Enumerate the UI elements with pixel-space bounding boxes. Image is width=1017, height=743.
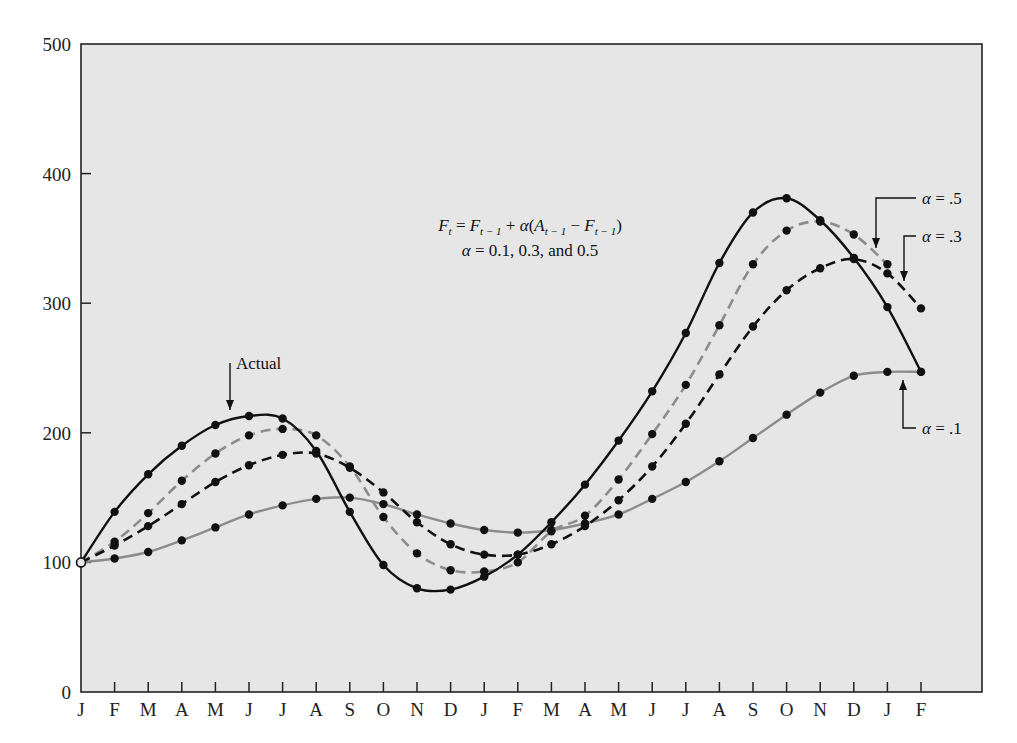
data-point [178, 477, 186, 485]
data-point [614, 510, 622, 518]
formula-alpha-values: = 0.1, 0.3, and 0.5 [475, 241, 598, 260]
data-point [883, 368, 891, 376]
data-point [178, 442, 186, 450]
x-tick-label: A [578, 699, 592, 720]
alpha3-callout-label: α = .3 [922, 227, 962, 246]
data-point [682, 381, 690, 389]
data-point [782, 286, 790, 294]
data-point [346, 464, 354, 472]
y-tick-label: 500 [43, 34, 72, 55]
actual-callout-label: Actual [236, 354, 282, 373]
data-point [581, 512, 589, 520]
data-point [850, 230, 858, 238]
data-point [278, 501, 286, 509]
data-point [211, 523, 219, 531]
data-point [782, 226, 790, 234]
y-tick-label: 300 [43, 293, 72, 314]
x-tick-label: J [480, 699, 487, 720]
data-point [514, 528, 522, 536]
origin-point [77, 558, 86, 567]
x-tick-label: O [377, 699, 391, 720]
formula-line-1: Ft = Ft − 1 + α(At − 1 − Ft − 1) [380, 216, 680, 241]
x-tick-label: F [916, 699, 927, 720]
data-point [682, 478, 690, 486]
data-point [413, 584, 421, 592]
data-point [782, 194, 790, 202]
data-point [883, 260, 891, 268]
x-tick-label: M [610, 699, 627, 720]
data-point [715, 321, 723, 329]
data-point [480, 550, 488, 558]
data-point [379, 561, 387, 569]
data-point [413, 549, 421, 557]
data-point [446, 585, 454, 593]
data-point [379, 513, 387, 521]
data-point [245, 431, 253, 439]
x-tick-label: N [813, 699, 827, 720]
x-tick-label: O [780, 699, 794, 720]
data-point [715, 370, 723, 378]
data-point [480, 526, 488, 534]
data-point [446, 519, 454, 527]
x-tick-label: S [345, 699, 356, 720]
y-tick-label: 200 [43, 423, 72, 444]
data-point [850, 372, 858, 380]
data-point [749, 260, 757, 268]
data-point [883, 303, 891, 311]
data-point [278, 425, 286, 433]
forecast-chart: 0100200300400500JFMAMJJASONDJFMAMJJASOND… [0, 0, 1017, 743]
data-point [917, 368, 925, 376]
data-point [715, 457, 723, 465]
x-tick-label: A [713, 699, 727, 720]
x-tick-label: F [109, 699, 120, 720]
data-point [144, 470, 152, 478]
data-point [346, 508, 354, 516]
data-point [312, 495, 320, 503]
data-point [715, 259, 723, 267]
data-point [614, 436, 622, 444]
data-point [245, 461, 253, 469]
x-tick-label: J [884, 699, 891, 720]
data-point [682, 329, 690, 337]
data-point [917, 304, 925, 312]
data-point [446, 540, 454, 548]
formula-annotation: Ft = Ft − 1 + α(At − 1 − Ft − 1) α = 0.1… [380, 216, 680, 260]
data-point [413, 518, 421, 526]
data-point [581, 480, 589, 488]
data-point [547, 518, 555, 526]
x-tick-label: J [245, 699, 252, 720]
x-tick-label: M [543, 699, 560, 720]
x-tick-label: M [140, 699, 157, 720]
data-point [614, 496, 622, 504]
data-point [110, 554, 118, 562]
data-point [648, 430, 656, 438]
data-point [883, 269, 891, 277]
x-tick-label: N [410, 699, 424, 720]
data-point [514, 558, 522, 566]
data-point [178, 536, 186, 544]
data-point [446, 566, 454, 574]
data-point [749, 322, 757, 330]
data-point [346, 493, 354, 501]
x-tick-label: A [175, 699, 189, 720]
data-point [816, 264, 824, 272]
data-point [749, 434, 757, 442]
formula-line-2: α = 0.1, 0.3, and 0.5 [380, 241, 680, 260]
alpha1-callout-label: α = .1 [922, 419, 962, 438]
data-point [211, 449, 219, 457]
data-point [110, 541, 118, 549]
data-point [749, 208, 757, 216]
x-tick-label: J [279, 699, 286, 720]
data-point [178, 500, 186, 508]
data-point [245, 510, 253, 518]
x-tick-label: S [748, 699, 759, 720]
y-tick-label: 100 [43, 552, 72, 573]
x-tick-label: J [77, 699, 84, 720]
x-tick-label: D [847, 699, 861, 720]
data-point [278, 414, 286, 422]
data-point [413, 510, 421, 518]
data-point [547, 540, 555, 548]
data-point [110, 508, 118, 516]
data-point [144, 548, 152, 556]
data-point [144, 522, 152, 530]
